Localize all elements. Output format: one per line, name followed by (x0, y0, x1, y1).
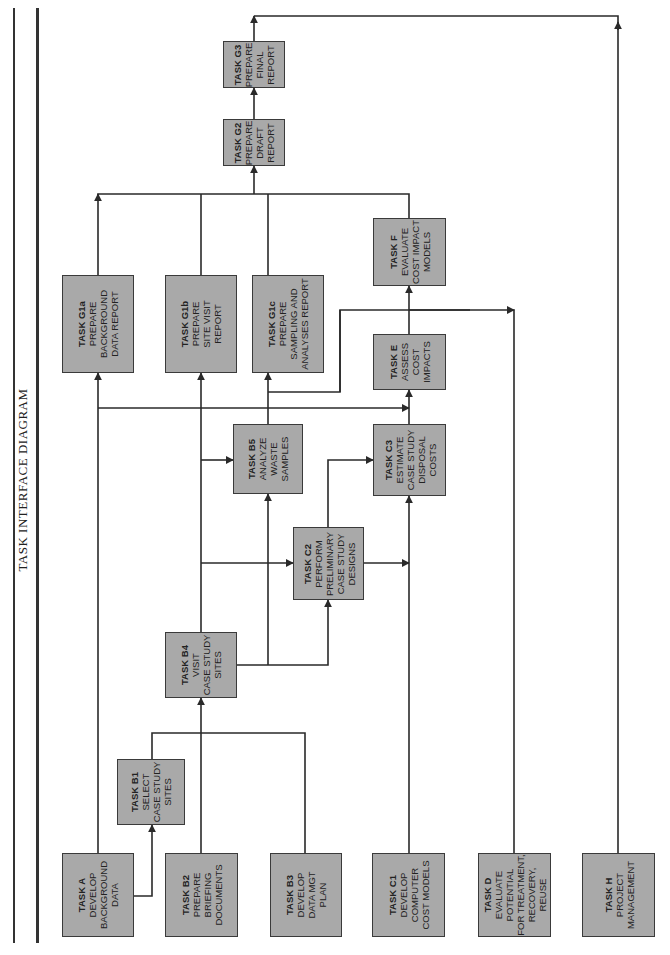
task-label: REPORT (265, 120, 276, 165)
task-label: IMPACTS (421, 341, 432, 383)
task-label: VISIT (190, 635, 201, 696)
task-label: POTENTIAL (504, 854, 515, 935)
task-label: SITES (162, 762, 173, 823)
task-label: ANALYSES REPORT (299, 278, 310, 370)
task-label: DOCUMENTS (213, 864, 224, 925)
task-g1a-box[interactable]: TASK G1aPREPAREBACKGROUNDDATA REPORT (62, 275, 134, 373)
task-id: TASK B4 (179, 635, 190, 696)
task-e-box[interactable]: TASK EASSESSCOSTIMPACTS (373, 334, 446, 390)
task-label: EVALUATE (493, 854, 504, 935)
task-id: TASK A (76, 861, 87, 929)
task-label: ASSESS (399, 341, 410, 383)
task-b1-box[interactable]: TASK B1SELECTCASE STUDYSITES (117, 759, 185, 825)
task-label: DRAFT (254, 120, 265, 165)
task-label: WASTE (268, 437, 279, 482)
task-label: FOR TREATMENT, (515, 854, 526, 935)
task-h-box[interactable]: TASK HPROJECTMANAGEMENT (582, 853, 655, 937)
task-label: PREPARE (87, 290, 98, 358)
task-label: PREPARE (277, 278, 288, 370)
task-id: TASK G2 (232, 120, 243, 165)
task-label: DATA (109, 861, 120, 929)
task-label: COST (410, 341, 421, 383)
task-g1c-box[interactable]: TASK G1cPREPARESAMPLING ANDANALYSES REPO… (252, 275, 324, 373)
task-id: TASK F (388, 220, 399, 284)
task-label: DEVELOP (295, 871, 306, 918)
task-label: SITES (212, 635, 223, 696)
task-label: DEVELOP (87, 861, 98, 929)
task-c1-box[interactable]: TASK C1DEVELOPCOMPUTERCOST MODELS (372, 853, 445, 937)
task-label: DEVELOP (398, 861, 409, 930)
task-id: TASK B1 (129, 762, 140, 823)
task-g2-box[interactable]: TASK G2PREPAREDRAFTREPORT (223, 119, 285, 166)
task-label: COSTS (426, 430, 437, 491)
task-label: BACKGROUND (98, 290, 109, 358)
task-b2-box[interactable]: TASK B2PREPAREBRIEFINGDOCUMENTS (165, 853, 238, 937)
task-label: REUSE (537, 854, 548, 935)
task-label: PREPARE (190, 300, 201, 348)
task-label: BACKGROUND (98, 861, 109, 929)
task-id: TASK G1c (266, 278, 277, 370)
task-label: REPORT (265, 42, 276, 87)
task-label: MANAGEMENT (624, 861, 635, 929)
task-label: REPORT (212, 300, 223, 348)
task-label: EVALUATE (399, 220, 410, 284)
task-id: TASK E (388, 341, 399, 383)
task-id: TASK B3 (284, 871, 295, 918)
task-label: PREPARE (243, 120, 254, 165)
task-label: COMPUTER (409, 861, 420, 930)
task-label: FINAL (254, 42, 265, 87)
task-label: SAMPLING AND (288, 278, 299, 370)
task-g1b-box[interactable]: TASK G1bPREPARESITE VISITREPORT (165, 275, 237, 373)
task-label: DESIGNS (345, 531, 356, 595)
task-label: PREPARE (191, 864, 202, 925)
task-id: TASK B2 (180, 864, 191, 925)
task-a-box[interactable]: TASK ADEVELOPBACKGROUNDDATA (62, 853, 134, 937)
task-label: SAMPLES (279, 437, 290, 482)
task-label: PROJECT (613, 861, 624, 929)
task-id: TASK G1a (76, 290, 87, 358)
task-label: RECOVERY, (526, 854, 537, 935)
task-c3-box[interactable]: TASK C3ESTIMATECASE STUDYDISPOSALCOSTS (373, 424, 446, 496)
task-label: PERFORM (312, 531, 323, 595)
task-label: MODELS (421, 220, 432, 284)
task-b3-box[interactable]: TASK B3DEVELOPDATA MGTPLAN (270, 853, 342, 937)
task-label: COST IMPACT (410, 220, 421, 284)
task-id: TASK H (602, 861, 613, 929)
task-id: TASK G3 (232, 42, 243, 87)
task-id: TASK G1b (179, 300, 190, 348)
task-g3-box[interactable]: TASK G3PREPAREFINALREPORT (223, 41, 285, 88)
task-label: ESTIMATE (393, 430, 404, 491)
task-label: BRIEFING (202, 864, 213, 925)
task-label: ANALYZE (257, 437, 268, 482)
task-id: TASK C1 (387, 861, 398, 930)
task-b5-box[interactable]: TASK B5ANALYZEWASTESAMPLES (233, 424, 303, 494)
task-label: COST MODELS (420, 861, 431, 930)
task-d-box[interactable]: TASK DEVALUATEPOTENTIALFOR TREATMENT,REC… (478, 853, 551, 937)
task-b4-box[interactable]: TASK B4VISITCASE STUDYSITES (165, 632, 237, 698)
task-label: SELECT (140, 762, 151, 823)
task-label: PREPARE (243, 42, 254, 87)
task-label: DATA REPORT (109, 290, 120, 358)
task-id: TASK B5 (246, 437, 257, 482)
task-label: CASE STUDY (201, 635, 212, 696)
connector-lines (0, 0, 670, 955)
task-id: TASK C2 (301, 531, 312, 595)
task-label: PRELIMINARY (323, 531, 334, 595)
task-label: CASE STUDY (334, 531, 345, 595)
task-label: CASE STUDY (151, 762, 162, 823)
task-label: PLAN (317, 871, 328, 918)
task-label: SITE VISIT (201, 300, 212, 348)
task-c2-box[interactable]: TASK C2PERFORMPRELIMINARYCASE STUDYDESIG… (293, 527, 364, 600)
task-label: DATA MGT (306, 871, 317, 918)
task-f-box[interactable]: TASK FEVALUATECOST IMPACTMODELS (373, 218, 446, 286)
task-id: TASK C3 (382, 430, 393, 491)
task-label: CASE STUDY (404, 430, 415, 491)
task-label: DISPOSAL (415, 430, 426, 491)
task-id: TASK D (482, 854, 493, 935)
